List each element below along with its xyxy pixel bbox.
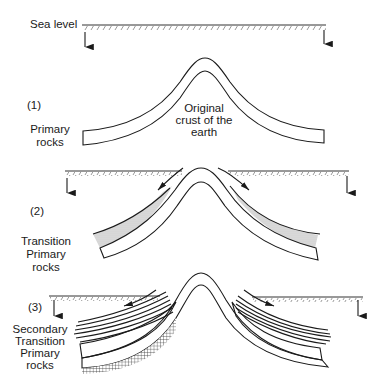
rock-label-line: Primary bbox=[30, 123, 70, 135]
stage-number: (3) bbox=[28, 301, 42, 313]
rock-label-line: rocks bbox=[36, 136, 64, 148]
rock-label-line: Primary bbox=[20, 347, 60, 359]
rock-label-line: Transition bbox=[21, 235, 71, 247]
transition-layer-right bbox=[232, 188, 318, 248]
rock-label-line: rocks bbox=[26, 359, 54, 371]
secondary-layer-right bbox=[236, 296, 331, 344]
stage-3: (3) Secondary Transition Primary rocks bbox=[13, 273, 363, 374]
stage-number: (2) bbox=[30, 205, 44, 217]
center-label-line: Original bbox=[184, 102, 224, 114]
sea-level-hatch bbox=[253, 298, 363, 302]
primary-crust-layer bbox=[100, 168, 318, 260]
sea-level-hatch bbox=[66, 172, 182, 176]
rock-label-line: Secondary bbox=[13, 323, 68, 335]
crust-formation-diagram: Sea level (1) Primary rocks Original cru… bbox=[0, 0, 382, 391]
rock-label-line: Primary bbox=[26, 248, 66, 260]
stage-1: Sea level (1) Primary rocks Original cru… bbox=[27, 18, 326, 148]
rock-label-line: rocks bbox=[32, 261, 60, 273]
stage-number: (1) bbox=[27, 99, 41, 111]
sea-level-hatch bbox=[84, 26, 326, 30]
stage-2: (2) Transition Primary rocks bbox=[21, 168, 349, 273]
rock-label-line: Transition bbox=[15, 335, 65, 347]
sea-level-label: Sea level bbox=[30, 18, 77, 30]
sea-level-hatch bbox=[229, 172, 349, 176]
center-label-line: earth bbox=[191, 126, 217, 138]
center-label-line: crust of the bbox=[176, 114, 233, 126]
